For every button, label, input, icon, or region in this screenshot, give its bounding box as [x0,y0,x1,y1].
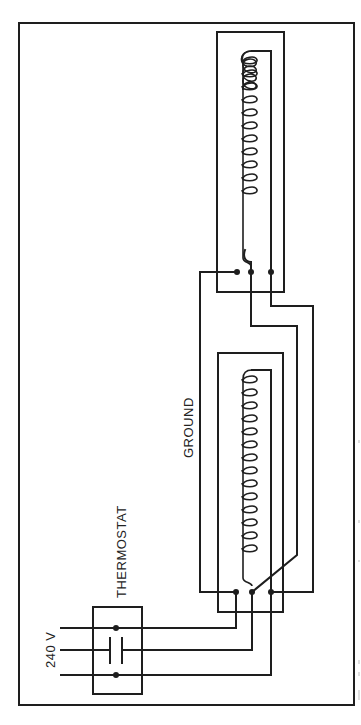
heater-1 [217,32,284,292]
heater-2 [218,353,283,612]
wire-center-interconnect [251,272,297,592]
heater-2-coil-loops [242,370,257,586]
wiring-diagram: 240 V THERMOSTAT GROUND [0,0,361,725]
wire-right-interconnect [271,272,313,592]
heater-2-enclosure [218,353,283,612]
supply-line-1 [61,592,236,628]
outer-frame [19,23,354,705]
voltage-label: 240 V [43,632,58,668]
thermostat-label: THERMOSTAT [114,505,129,598]
heater-1-enclosure [217,32,284,292]
ground-label: GROUND [181,397,196,458]
heater-1-coil-loops [242,51,257,266]
